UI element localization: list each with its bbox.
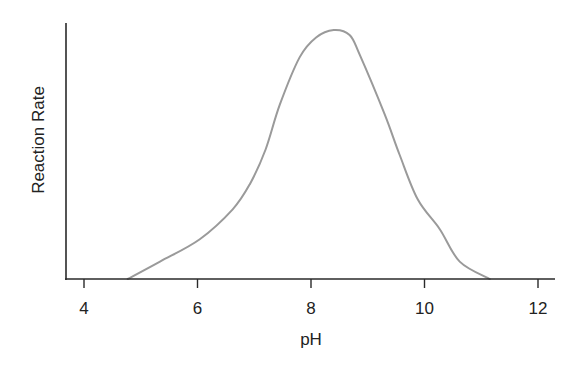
- reaction-rate-vs-ph-chart: 4681012 pH Reaction Rate: [0, 0, 585, 368]
- plot-area: [128, 30, 490, 279]
- x-tick-label: 6: [193, 299, 202, 318]
- y-axis-title: Reaction Rate: [29, 86, 48, 194]
- reaction-rate-curve: [128, 30, 490, 279]
- x-tick-label: 12: [529, 299, 548, 318]
- x-axis-ticks: 4681012: [79, 279, 547, 318]
- x-tick-label: 10: [415, 299, 434, 318]
- x-tick-label: 4: [79, 299, 88, 318]
- x-tick-label: 8: [306, 299, 315, 318]
- x-axis-title: pH: [300, 330, 322, 349]
